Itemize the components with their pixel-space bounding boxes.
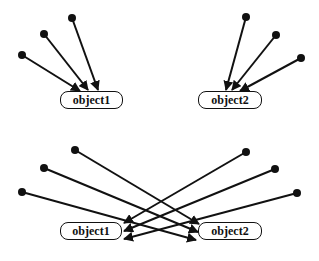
edge-arrow: [75, 150, 199, 224]
source-dot: [68, 14, 76, 22]
source-dot: [71, 146, 79, 154]
source-dot: [242, 13, 250, 21]
edge-arrow: [240, 58, 301, 91]
diagram-canvas: [0, 0, 319, 261]
source-dot: [272, 31, 280, 39]
source-dot: [40, 30, 48, 38]
source-dot: [271, 165, 279, 173]
node-object2: object2: [198, 222, 262, 240]
source-dot: [18, 51, 26, 59]
source-dot: [18, 188, 26, 196]
node-object1: object1: [60, 91, 123, 109]
source-dot: [242, 148, 250, 156]
edge-arrow: [226, 17, 246, 90]
node-object2: object2: [198, 91, 262, 109]
source-dot: [40, 164, 48, 172]
source-dot: [293, 189, 301, 197]
edge-arrow: [22, 55, 80, 91]
source-dot: [297, 54, 305, 62]
node-object1: object1: [60, 222, 122, 240]
edge-arrow: [72, 18, 98, 90]
